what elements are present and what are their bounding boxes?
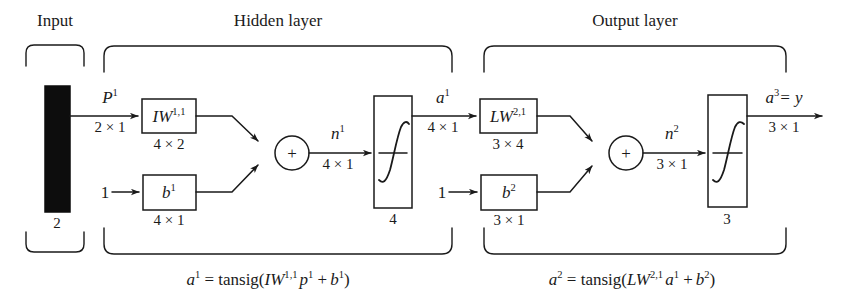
wire-iw-to-sum (196, 116, 258, 141)
eq1-plus: + (318, 270, 328, 289)
eq2-a: a (665, 270, 674, 289)
signal-symbol-a1: a (436, 88, 445, 107)
group-label-output: Output layer (592, 12, 677, 29)
signal-label-a3: a3= y (765, 88, 802, 106)
signal-dim-a1: 4 × 1 (428, 120, 459, 135)
signal-symbol-a3: a (765, 88, 774, 107)
eq2-lhs-sup: 2 (557, 269, 562, 280)
weight-symbol-lw: LW (490, 107, 513, 126)
eq1-lhs: a (186, 270, 195, 289)
weight-dim-iw: 4 × 2 (154, 137, 185, 152)
brace-input-bottom (26, 232, 84, 252)
brace-input (26, 45, 84, 66)
net-symbol-n1: n (331, 124, 340, 143)
weight-sup-lw: 2,1 (513, 106, 526, 117)
sigmoid-curve-2 (713, 122, 744, 182)
signal-label-a1: a1 (436, 88, 450, 106)
signal-label-p1: P1 (102, 88, 118, 106)
sum-symbol-2: + (621, 145, 631, 162)
transfer-neurons-1: 4 (389, 212, 397, 227)
eq1-w-sup: 1,1 (284, 269, 297, 280)
weight-label-iw: IW1,1 (153, 107, 186, 125)
eq2-close: ) (710, 270, 716, 289)
equation-hidden-layer: a1 = tansig(IW1,1p1 +b1) (186, 270, 349, 288)
eq1-tansig: = tansig( (204, 270, 264, 289)
eq1-p-sup: 1 (308, 269, 313, 280)
weight-dim-lw: 3 × 4 (493, 137, 524, 152)
sum-symbol-1: + (287, 145, 297, 162)
wire-b2-to-sum (537, 166, 592, 192)
signal-sup-a1: 1 (445, 87, 450, 98)
transfer-box-1 (374, 96, 412, 208)
net-sup-n1: 1 (340, 123, 345, 134)
signal-dim-a3: 3 × 1 (769, 120, 800, 135)
net-label-n1: n1 (331, 124, 345, 142)
eq1-w: IW (265, 270, 285, 289)
bias-dim-b1: 4 × 1 (154, 213, 185, 228)
net-symbol-n2: n (665, 124, 674, 143)
bias-symbol-b1: b (162, 183, 171, 202)
brace-hidden-bottom (104, 228, 452, 254)
equation-output-layer: a2 = tansig(LW2,1a1 +b2) (549, 270, 715, 288)
weight-label-lw: LW2,1 (490, 107, 526, 125)
net-dim-n2: 3 × 1 (657, 157, 688, 172)
net-label-n2: n2 (665, 124, 679, 142)
eq1-b: b (330, 270, 339, 289)
bias-label-b2: b2 (502, 183, 516, 201)
diagram-canvas: Input Hidden layer Output layer 2 P1 2 ×… (0, 0, 847, 303)
group-label-hidden: Hidden layer (234, 12, 322, 29)
eq2-lhs: a (549, 270, 558, 289)
transfer-box-2 (708, 95, 747, 207)
sigmoid-curve-1 (379, 122, 409, 182)
bias-label-b1: b1 (162, 183, 176, 201)
signal-dim-p1: 2 × 1 (95, 120, 126, 135)
eq1-close: ) (344, 270, 350, 289)
weight-symbol-iw: IW (153, 107, 173, 126)
input-vector-block (45, 86, 70, 212)
eq2-w-sup: 2,1 (650, 269, 663, 280)
bias-sup-b1: 1 (171, 182, 176, 193)
wire-lw-to-sum (537, 116, 592, 141)
bias-input-label-2: 1 (438, 184, 447, 201)
eq1-lhs-sup: 1 (195, 269, 200, 280)
diagram-vector-layer (0, 0, 847, 303)
transfer-neurons-2: 3 (723, 212, 731, 227)
brace-hidden-top (104, 46, 452, 72)
brace-output-top (484, 46, 786, 72)
signal-sup-p: 1 (113, 87, 118, 98)
bias-sup-b2: 2 (511, 182, 516, 193)
eq1-p: p (300, 270, 309, 289)
wire-b1-to-sum (196, 165, 258, 192)
group-label-input: Input (37, 12, 73, 29)
net-sup-n2: 2 (674, 123, 679, 134)
net-dim-n1: 4 × 1 (323, 157, 354, 172)
eq2-plus: + (683, 270, 693, 289)
bias-input-label-1: 1 (101, 184, 110, 201)
eq2-w: LW (627, 270, 650, 289)
eq2-tansig: = tansig( (567, 270, 627, 289)
bias-symbol-b2: b (502, 183, 511, 202)
signal-symbol-p: P (102, 88, 112, 107)
weight-sup-iw: 1,1 (172, 106, 185, 117)
input-block-size: 2 (53, 216, 61, 231)
bias-dim-b2: 3 × 1 (494, 213, 525, 228)
eq2-a-sup: 1 (674, 269, 679, 280)
brace-output-bottom (484, 228, 786, 254)
signal-equals-y: = y (779, 88, 802, 107)
